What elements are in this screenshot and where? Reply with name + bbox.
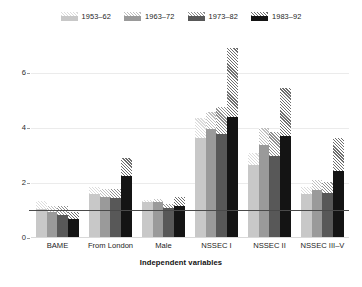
bar-groups [31,40,349,238]
legend-label: 1973–82 [209,12,238,21]
bar-confidence-interval [89,187,100,194]
legend-entry[interactable]: 1983–92 [251,12,301,21]
bar-group [31,40,84,238]
legend-swatch-icon [188,12,205,21]
bar[interactable] [333,138,344,238]
bar-confidence-interval [36,201,47,209]
x-axis-tick-labels: BAMEFrom LondonMaleNSSEC INSSEC IINSSEC … [31,241,349,251]
chart-legend: 1953–621963–721973–821983–92 [0,12,362,21]
legend-label: 1963–72 [145,12,174,21]
bar[interactable] [142,200,153,239]
bar-confidence-interval [100,189,111,197]
bar[interactable] [110,189,121,239]
bar-value-segment [227,117,238,238]
bar-confidence-interval [206,112,217,130]
legend-label: 1953–62 [82,12,111,21]
bar-value-segment [153,202,164,238]
legend-entry[interactable]: 1953–62 [61,12,111,21]
bar[interactable] [57,206,68,238]
reference-line-at-one [29,210,349,211]
x-axis-title: Independent variables [0,258,362,267]
bar[interactable] [269,132,280,238]
bar-value-segment [36,209,47,238]
bar-value-segment [89,194,100,238]
bar-value-segment [47,212,58,238]
y-axis-tick-label: 4 [22,124,26,132]
bar-value-segment [57,215,68,238]
y-axis-tick-mark [27,73,30,74]
bar-confidence-interval [301,187,312,194]
legend-swatch-icon [124,12,141,21]
bar[interactable] [216,107,227,238]
bar-confidence-interval [280,88,291,136]
bar[interactable] [47,206,58,238]
bar-confidence-interval [333,138,344,171]
bar-confidence-interval [216,107,227,133]
bar-value-segment [110,198,121,238]
bar-group-inner [142,40,184,238]
bar[interactable] [248,153,259,238]
bar[interactable] [301,187,312,238]
bar[interactable] [153,199,164,238]
bar-value-segment [301,194,312,238]
bar[interactable] [174,197,185,238]
bar-value-segment [121,176,132,238]
bar-confidence-interval [195,118,206,137]
bar-group-inner [248,40,290,238]
legend-swatch-icon [61,12,78,21]
bar-value-segment [322,193,333,238]
bar[interactable] [206,112,217,239]
bar-confidence-interval [322,182,333,193]
bar-value-segment [216,134,227,239]
bar-value-segment [68,219,79,238]
y-axis-tick-label: 2 [22,179,26,187]
bar-value-segment [195,138,206,238]
legend-label: 1983–92 [272,12,301,21]
bar-confidence-interval [269,132,280,155]
bar[interactable] [100,189,111,239]
bar-value-segment [312,190,323,238]
bar-confidence-interval [174,197,185,206]
bar-confidence-interval [248,153,259,165]
bar[interactable] [89,187,100,238]
bar-value-segment [259,145,270,239]
bar-value-segment [333,171,344,238]
bar-confidence-interval [259,128,270,145]
y-axis-tick-label: 0 [22,234,26,242]
bar-value-segment [163,208,174,238]
bar-value-segment [100,197,111,238]
bar[interactable] [195,118,206,238]
x-axis-baseline [31,237,349,238]
bar-group-inner [89,40,131,238]
bar-group [190,40,243,238]
bar-value-segment [206,129,217,238]
x-axis-tick-label: NSSEC I [190,241,243,251]
bar-group [296,40,349,238]
bar[interactable] [68,212,79,238]
bar-confidence-interval [57,206,68,214]
y-axis-tick-label: 6 [22,69,26,77]
x-axis-tick-label: From London [84,241,137,251]
bar-value-segment [142,202,153,238]
legend-entry[interactable]: 1963–72 [124,12,174,21]
plot-area: 0246 [31,40,349,238]
x-axis-tick-label: NSSEC III–V [296,241,349,251]
bar[interactable] [280,88,291,238]
bar[interactable] [121,158,132,238]
x-axis-tick-label: NSSEC II [243,241,296,251]
bar-group-inner [36,40,78,238]
bar-group [137,40,190,238]
y-axis-tick-mark [27,128,30,129]
bar-group-inner [301,40,343,238]
x-axis-tick-label: Male [137,241,190,251]
y-axis-tick-mark [27,238,30,239]
bar-confidence-interval [121,158,132,176]
bar-value-segment [280,136,291,238]
bar-confidence-interval [312,180,323,190]
bar-confidence-interval [110,189,121,199]
bar-value-segment [248,165,259,238]
bar[interactable] [36,201,47,238]
bar-confidence-interval [227,48,238,117]
legend-entry[interactable]: 1973–82 [188,12,238,21]
bar[interactable] [259,128,270,238]
